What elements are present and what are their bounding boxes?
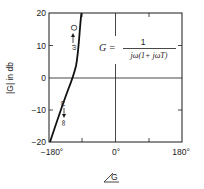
x-axis-title: G <box>104 172 119 182</box>
y-tick-label-20: 20 <box>37 8 47 18</box>
x-tick-label-180: 180° <box>172 147 190 157</box>
svg-text:ω: ω <box>69 44 78 50</box>
omega-to-zero-annotation: ω O <box>69 24 79 50</box>
svg-text:jω(1+ jωT): jω(1+ jωT) <box>130 51 168 60</box>
svg-text:O: O <box>69 24 79 31</box>
x-tick-label-neg180: −180° <box>41 147 64 157</box>
svg-text:G =: G = <box>99 42 115 53</box>
svg-text:G: G <box>111 172 118 182</box>
transfer-function-formula: G = 1 jω(1+ jωT) <box>97 36 177 64</box>
nichols-chart: ω O ω ∞ G = 1 jω(1+ jωT) 20 10 0 −10 −20… <box>0 0 204 189</box>
y-tick-label-10: 10 <box>37 41 47 51</box>
svg-text:ω: ω <box>59 101 68 107</box>
x-tick-label-0: 0° <box>112 147 120 157</box>
svg-text:1: 1 <box>141 37 146 47</box>
y-tick-label-neg20: −20 <box>32 137 47 147</box>
y-axis-title: |G| in db <box>5 62 15 94</box>
y-tick-label-neg10: −10 <box>32 105 47 115</box>
svg-text:∞: ∞ <box>59 120 69 126</box>
y-tick-label-0: 0 <box>41 73 46 83</box>
